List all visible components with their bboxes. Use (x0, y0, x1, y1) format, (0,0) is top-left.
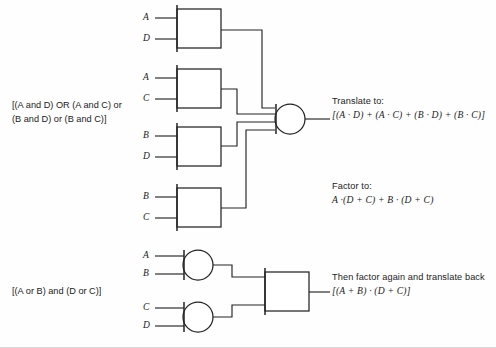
or-gate-1-circle (275, 104, 305, 134)
refactor-annotation: Then factor again and translate back [(A… (332, 271, 485, 297)
pin-label-and3-in1: B (143, 131, 149, 141)
or-gate-3-output-wire (213, 305, 265, 317)
pin-label-or2-in1: A (143, 251, 149, 261)
and-gate-2-box (177, 69, 221, 108)
pin-label-and1-in1: A (143, 13, 149, 23)
factor-formula: A ·(D + C) + B · (D + C) (332, 193, 434, 206)
refactor-header: Then factor again and translate back (332, 271, 485, 284)
and-gate-3-box (177, 127, 221, 166)
pin-label-and2-in2: C (143, 94, 149, 104)
and-gate-5-box (265, 272, 309, 311)
and-gate-4-output-wire (221, 130, 275, 208)
or-gate-3-circle (183, 302, 213, 332)
and-gate-4-box (177, 188, 221, 227)
translate-formula: [(A · D) + (A · C) + (B · D) + (B · C)] (332, 108, 485, 121)
pin-label-or3-in1: C (143, 303, 149, 313)
pin-label-or2-in2: B (143, 269, 149, 279)
translate-header: Translate to: (332, 95, 485, 108)
figure-canvas: A D A C B D B C A B C D [(A and D) OR (A… (0, 0, 496, 348)
product-of-sums-label: [(A or B) and (D or C)] (12, 285, 101, 299)
and-gate-2-output-wire (221, 89, 275, 114)
and-gate-3-output-wire (221, 122, 275, 146)
sum-of-products-line-1: [(A and D) OR (A and C) or (12, 99, 122, 113)
refactor-formula: [(A + B) · (D + C)] (332, 284, 485, 297)
and-gate-1-box (177, 9, 221, 48)
pin-label-and4-in2: C (143, 213, 149, 223)
or-gate-2-output-wire (213, 265, 265, 277)
pin-label-and3-in2: D (143, 152, 150, 162)
sum-of-products-label: [(A and D) OR (A and C) or (B and D) or … (12, 99, 122, 126)
factor-header: Factor to: (332, 180, 434, 193)
pin-label-or3-in2: D (143, 321, 150, 331)
pin-label-and1-in2: D (143, 34, 150, 44)
factor-annotation: Factor to: A ·(D + C) + B · (D + C) (332, 180, 434, 206)
sum-of-products-line-2: (B and D) or (B and C)] (12, 113, 122, 127)
pin-label-and2-in1: A (143, 73, 149, 83)
or-gate-2-circle (183, 250, 213, 280)
and-gate-1-output-wire (221, 30, 275, 108)
translate-annotation: Translate to: [(A · D) + (A · C) + (B · … (332, 95, 485, 121)
pin-label-and4-in1: B (143, 192, 149, 202)
